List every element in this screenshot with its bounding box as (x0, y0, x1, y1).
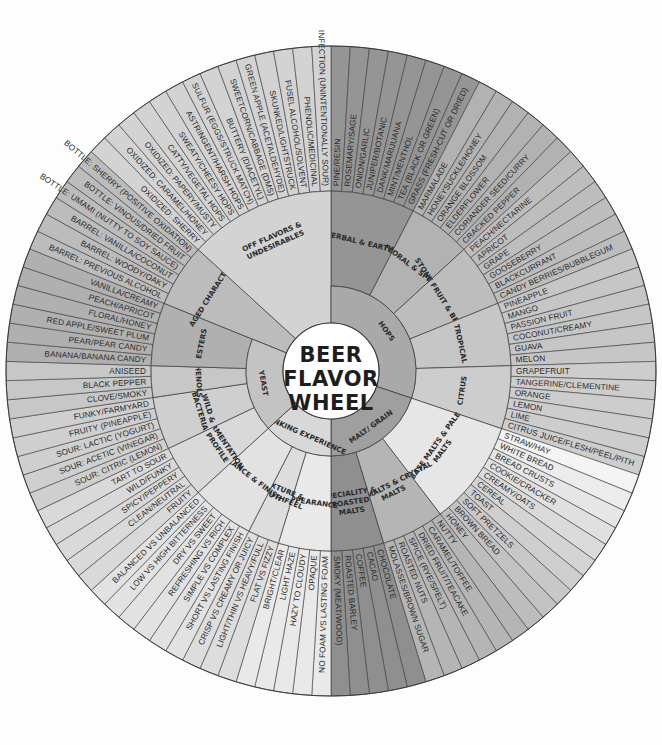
center-title: BEER FLAVOR WHEEL (283, 323, 379, 419)
flavor-label-aniseed: ANISEED (109, 367, 146, 376)
title-line-2: FLAVOR (283, 367, 378, 391)
title-line-3: WHEEL (288, 391, 373, 415)
flavor-label-grapefruit: GRAPEFRUIT (516, 367, 570, 376)
title-line-1: BEER (300, 343, 363, 367)
beer-flavor-wheel: PINE/RESINROSEMARY/SAGEONION/GARLICJUNIP… (0, 0, 662, 745)
flavor-label-melon: MELON (515, 354, 545, 365)
flavor-label-pine-resin: PINE/RESIN (332, 139, 342, 187)
